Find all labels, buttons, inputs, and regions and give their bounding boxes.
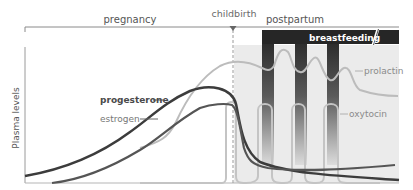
prolactin-label: prolactin (364, 66, 403, 76)
y-axis-label: Plasma levels (11, 87, 21, 149)
estrogen-label: estrogen (100, 114, 140, 124)
hormone-levels-diagram: pregnancy childbirth postpartum breastfe… (0, 0, 413, 190)
childbirth-label: childbirth (212, 8, 257, 19)
breastfeeding-label: breastfeeding (309, 33, 380, 43)
postpartum-label: postpartum (266, 14, 324, 25)
oxytocin-label: oxytocin (349, 109, 387, 119)
childbirth-marker-icon (230, 26, 237, 31)
progesterone-label: progesterone (100, 95, 169, 105)
pregnancy-label: pregnancy (104, 14, 157, 25)
